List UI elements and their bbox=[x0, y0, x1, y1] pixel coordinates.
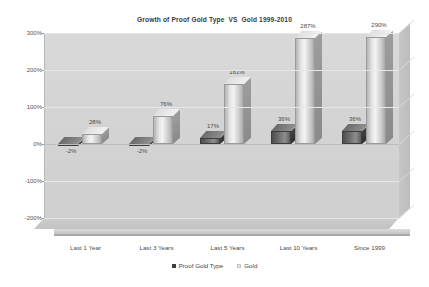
x-axis-labels: Last 1 YearLast 3 YearsLast 5 YearsLast … bbox=[44, 244, 416, 256]
bar-value-label: 287% bbox=[289, 23, 328, 29]
gridline bbox=[44, 181, 399, 182]
y-axis-tick-label: 200% bbox=[2, 67, 42, 73]
legend-label: Gold bbox=[244, 262, 257, 269]
legend-swatch-icon bbox=[237, 264, 241, 268]
legend-item-gold[interactable]: Gold bbox=[237, 262, 257, 269]
bar-face bbox=[153, 116, 173, 144]
bar-value-label: 28% bbox=[76, 119, 115, 125]
y-axis-tick-label: 100% bbox=[2, 104, 42, 110]
chart-container: Growth of Proof Gold Type VS Gold 1999-2… bbox=[0, 0, 429, 287]
bar-value-label: -2% bbox=[52, 148, 91, 154]
legend-item-proof[interactable]: Proof Gold Type bbox=[172, 262, 224, 269]
y-axis-tick-label: -200% bbox=[2, 215, 42, 221]
plot-right-wall bbox=[399, 23, 410, 218]
legend-swatch-icon bbox=[172, 264, 176, 268]
gridline bbox=[44, 144, 399, 145]
chart-legend: Proof Gold TypeGold bbox=[0, 262, 429, 269]
x-axis-category-label: Last 1 Year bbox=[70, 244, 101, 251]
plot-floor bbox=[34, 218, 399, 229]
y-axis-tick-label: 300% bbox=[2, 30, 42, 36]
gridline bbox=[44, 70, 399, 71]
x-axis-category-label: Last 3 Years bbox=[139, 244, 173, 251]
bar-gold[interactable] bbox=[82, 134, 102, 144]
bar-face bbox=[342, 131, 362, 144]
bar-proof[interactable] bbox=[342, 131, 362, 144]
gridline bbox=[44, 107, 399, 108]
bar-face bbox=[295, 38, 315, 144]
x-axis-category-label: Last 10 Years bbox=[280, 244, 318, 251]
y-axis-tick-label: 0% bbox=[2, 141, 42, 147]
bar-value-label: -2% bbox=[123, 148, 162, 154]
y-axis-tick-label: -100% bbox=[2, 178, 42, 184]
x-axis-category-label: Last 5 Years bbox=[210, 244, 244, 251]
plot-floor-edge bbox=[54, 234, 410, 236]
legend-label: Proof Gold Type bbox=[179, 262, 224, 269]
bar-value-label: 76% bbox=[147, 101, 186, 107]
bar-face bbox=[224, 84, 244, 144]
bar-face bbox=[271, 131, 291, 144]
bars-layer: -2%28%-2%76%17%161%36%287%36%290% bbox=[44, 33, 399, 218]
bar-side bbox=[386, 30, 393, 144]
bar-gold[interactable] bbox=[153, 116, 173, 144]
bar-gold[interactable] bbox=[366, 37, 386, 144]
bar-side bbox=[315, 31, 322, 143]
gridline bbox=[44, 218, 399, 219]
x-axis-category-label: Since 1999 bbox=[354, 244, 385, 251]
bar-face bbox=[82, 134, 102, 144]
bar-proof[interactable] bbox=[271, 131, 291, 144]
bar-side bbox=[244, 78, 251, 144]
y-axis: 300%200%100%0%-100%-200% bbox=[0, 33, 42, 229]
bar-value-label: 290% bbox=[360, 22, 399, 28]
bar-face bbox=[366, 37, 386, 144]
plot-area: -2%28%-2%76%17%161%36%287%36%290% bbox=[44, 33, 409, 229]
bar-gold[interactable] bbox=[224, 84, 244, 144]
gridline bbox=[44, 33, 399, 34]
bar-gold[interactable] bbox=[295, 38, 315, 144]
